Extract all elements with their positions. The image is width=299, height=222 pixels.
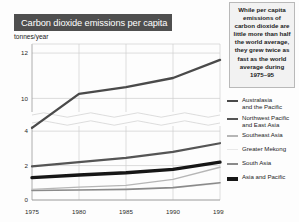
legend-item-label: Asia and Pacific bbox=[242, 173, 285, 180]
svg-text:0: 0 bbox=[25, 196, 29, 203]
legend-item[interactable]: Northwest Pacific and East Asia bbox=[227, 114, 299, 129]
legend-item[interactable]: Greater Mekong bbox=[227, 145, 299, 156]
svg-text:1990: 1990 bbox=[166, 208, 180, 215]
svg-text:1995: 1995 bbox=[213, 208, 224, 215]
callout-box: While per capita emissions of carbon dio… bbox=[229, 2, 295, 88]
legend-item[interactable]: Southeast Asia bbox=[227, 131, 299, 142]
svg-text:10: 10 bbox=[21, 95, 28, 102]
legend-item[interactable]: Australasia and the Pacific bbox=[227, 96, 299, 111]
axis-break-zigzag bbox=[32, 113, 220, 125]
page-title: Carbon dioxide emissions per capita bbox=[21, 18, 167, 28]
callout-text: While per capita emissions of carbon dio… bbox=[233, 6, 291, 79]
legend-swatch-icon bbox=[227, 135, 238, 136]
svg-text:4: 4 bbox=[25, 127, 29, 134]
chart-legend: Australasia and the PacificNorthwest Pac… bbox=[227, 96, 299, 187]
chart-title-banner: Carbon dioxide emissions per capita bbox=[14, 14, 172, 31]
y-axis-unit-label: tonnes/year bbox=[14, 33, 48, 40]
y-axis-tick-labels: 1210420 bbox=[21, 49, 28, 203]
line-chart-svg: 1210420 19751980198519901995 bbox=[12, 40, 224, 222]
legend-item-label: Southeast Asia bbox=[242, 131, 283, 138]
svg-text:1985: 1985 bbox=[119, 208, 133, 215]
svg-text:1980: 1980 bbox=[72, 208, 86, 215]
legend-item-label: Northwest Pacific and East Asia bbox=[242, 114, 289, 129]
svg-text:2: 2 bbox=[25, 162, 29, 169]
chart-page: Carbon dioxide emissions per capita tonn… bbox=[0, 0, 299, 222]
legend-swatch-icon bbox=[227, 118, 238, 120]
legend-swatch-icon bbox=[227, 149, 238, 150]
legend-swatch-icon bbox=[227, 177, 238, 180]
legend-swatch-icon bbox=[227, 163, 238, 165]
legend-swatch-icon bbox=[227, 100, 238, 102]
legend-item[interactable]: Asia and Pacific bbox=[227, 173, 299, 184]
legend-item[interactable]: South Asia bbox=[227, 159, 299, 170]
svg-text:1975: 1975 bbox=[25, 208, 39, 215]
plot-area: 1210420 19751980198519901995 bbox=[12, 40, 224, 222]
svg-text:12: 12 bbox=[21, 49, 28, 56]
legend-item-label: South Asia bbox=[242, 159, 271, 166]
legend-item-label: Australasia and the Pacific bbox=[242, 96, 282, 111]
legend-item-label: Greater Mekong bbox=[242, 145, 286, 152]
x-axis-tick-labels: 19751980198519901995 bbox=[25, 208, 224, 215]
